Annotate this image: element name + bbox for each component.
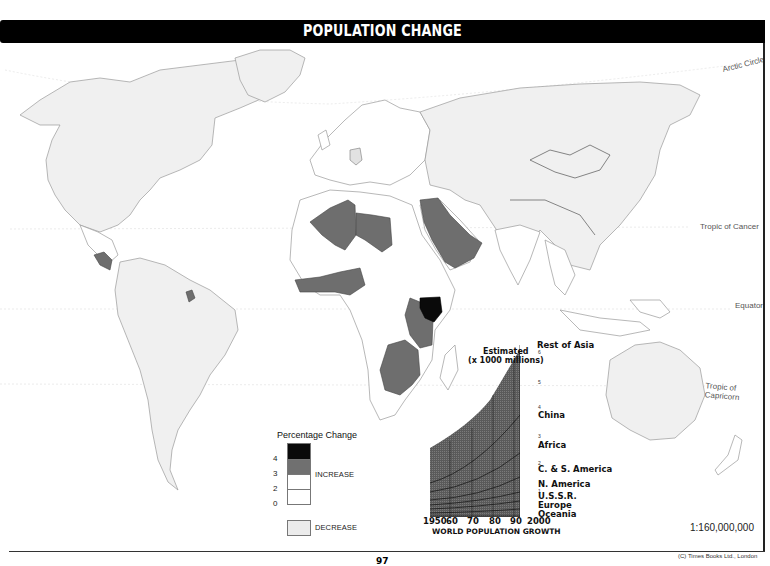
chart-xtick-80: 80 xyxy=(489,516,501,526)
legend-swatch-3-to-4 xyxy=(287,459,311,475)
legend-swatch-0-to-2 xyxy=(287,489,311,505)
legend-tick-3: 3 xyxy=(273,469,277,478)
chart-area-total xyxy=(430,349,520,517)
series-label-africa: Africa xyxy=(538,440,566,450)
series-label-china: China xyxy=(538,410,565,420)
legend-swatch-2-to-3 xyxy=(287,474,311,490)
chart-xtick-90: 90 xyxy=(510,516,522,526)
header-bar: POPULATION CHANGE xyxy=(0,20,765,43)
chart-xtick-60: 60 xyxy=(446,516,458,526)
legend-title: Percentage Change xyxy=(277,430,357,440)
map-scale: 1:160,000,000 xyxy=(690,522,754,533)
legend-swatch-decrease xyxy=(287,520,311,536)
chart-subtitle: Estimated (x 1000 millions) xyxy=(468,347,544,365)
legend-decrease-label: DECREASE xyxy=(315,523,357,532)
chart-xtick-70: 70 xyxy=(467,516,479,526)
series-label-cs-america: C. & S. America xyxy=(538,464,612,474)
southeast-asia xyxy=(545,240,670,336)
india xyxy=(495,225,540,285)
continents xyxy=(20,50,742,490)
tropic-of-capricorn-line xyxy=(0,384,705,386)
page-title: POPULATION CHANGE xyxy=(57,20,707,43)
south-america xyxy=(115,258,238,490)
frame-bottom-border xyxy=(9,551,765,552)
legend-increase-label: INCREASE xyxy=(315,470,354,479)
legend-tick-2: 2 xyxy=(273,484,277,493)
chart-title: WORLD POPULATION GROWTH xyxy=(432,527,561,536)
chart-ytick-5: 5 xyxy=(538,379,541,385)
new-zealand xyxy=(715,435,742,475)
legend-tick-0: 0 xyxy=(273,499,277,508)
chart-xtick-1950: 1950 xyxy=(423,516,447,526)
legend-swatch-over-4 xyxy=(287,443,311,460)
series-label-rest-of-asia: Rest of Asia xyxy=(537,340,594,350)
population-growth-chart xyxy=(430,345,520,517)
copyright-notice: (C) Times Books Ltd., London xyxy=(678,553,757,559)
chart-ytick-3: 3 xyxy=(538,433,541,439)
series-label-n-america: N. America xyxy=(538,479,590,489)
legend: Percentage Change 4 3 2 0 INCREASE DECRE… xyxy=(270,430,410,540)
chart-xtick-2000: 2000 xyxy=(527,516,551,526)
tropic-of-cancer-label: Tropic of Cancer xyxy=(700,222,759,231)
page-number: 97 xyxy=(376,556,389,566)
australia xyxy=(606,342,705,440)
equator-label: Equator xyxy=(735,301,763,310)
frame-right-border xyxy=(763,43,765,552)
legend-tick-4: 4 xyxy=(273,454,277,463)
